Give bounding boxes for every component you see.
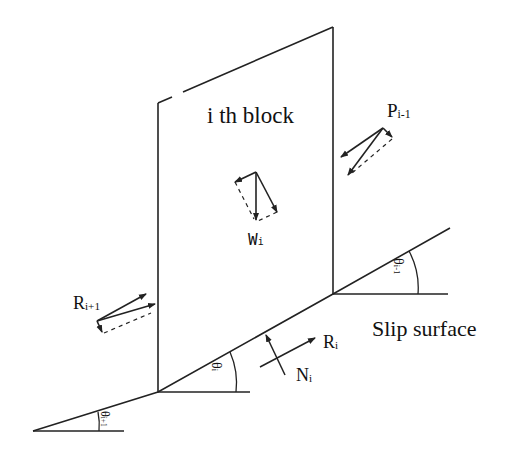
force-p-symbol: P [387,100,398,121]
force-p-label: Pi-1 [387,101,411,120]
ith-block-diagram: i th block Slip surface Pi-1 Wi Ri+1 Ri … [0,0,518,461]
force-w-symbol: W [248,230,258,249]
angle-theta-next-label: θi+1 [99,411,111,427]
angle-theta-next-subscript: i+1 [99,417,108,427]
force-n-label: Ni [296,366,312,384]
slip-surface-label: Slip surface [372,318,476,340]
block-outline [158,27,333,392]
force-r-next-label: Ri+1 [73,294,100,312]
force-w-subscript: i [258,236,264,247]
force-r-next-symbol: R [73,293,85,313]
angle-theta-prev-label: θi-1 [391,258,405,274]
angle-theta-prev-symbol: θ [391,258,406,265]
block-title-label: i th block [207,104,294,127]
interslice-force-r-next-vector [97,294,155,333]
force-r-label: Ri [323,333,338,351]
angle-arcs [98,251,418,431]
force-n-symbol: N [296,365,309,385]
force-r-next-subscript: i+1 [85,300,100,312]
angle-theta-prev-subscript: i-1 [392,265,402,275]
force-r-symbol: R [323,332,335,352]
interslice-force-p-vector [341,128,392,175]
diagram-graphics [0,0,518,461]
angle-theta-i-label: θi [209,362,223,371]
force-p-subscript: i-1 [398,108,411,121]
angle-theta-i-symbol: θ [209,362,224,369]
angle-theta-i-subscript: i [210,369,220,371]
horizontal-reference-lines [33,294,448,431]
force-w-label: Wi [248,232,264,248]
weight-force-vector [235,172,277,221]
force-r-subscript: i [335,339,338,351]
force-n-subscript: i [309,372,312,384]
